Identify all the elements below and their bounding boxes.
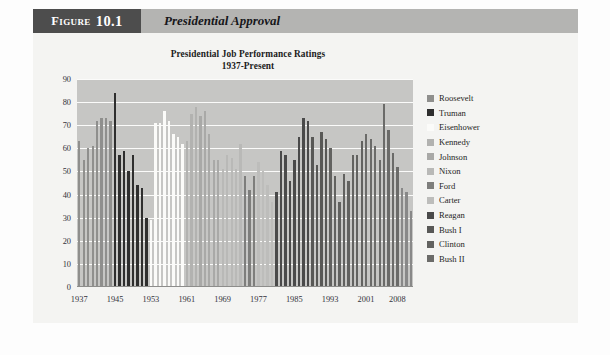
- bar: [87, 148, 89, 287]
- bar: [109, 121, 111, 287]
- x-axis-tick-label: 2001: [358, 295, 375, 304]
- bar: [239, 144, 241, 287]
- bar: [145, 218, 147, 287]
- legend-swatch: [427, 255, 434, 262]
- chart-title-block: Presidential Job Performance Ratings 193…: [33, 49, 463, 72]
- x-axis-tick-label: 1945: [107, 295, 124, 304]
- legend-label: Truman: [439, 108, 466, 118]
- bar: [123, 151, 125, 287]
- bar: [266, 185, 268, 287]
- bar-slot: [409, 79, 413, 287]
- y-axis-tick-label: 70: [63, 121, 71, 130]
- bar: [213, 160, 215, 287]
- legend-swatch: [427, 109, 434, 116]
- bar: [334, 176, 336, 287]
- bar: [383, 104, 385, 287]
- legend-item: Reagan: [427, 208, 547, 223]
- legend-swatch: [427, 197, 434, 204]
- bar: [365, 134, 367, 287]
- bar: [347, 181, 349, 287]
- legend-label: Eisenhower: [439, 122, 480, 132]
- bar: [374, 146, 376, 287]
- bar: [275, 192, 277, 287]
- x-axis-tick-label: 1953: [143, 295, 160, 304]
- bar: [248, 190, 250, 287]
- bar: [262, 171, 264, 287]
- x-axis-tick-label: 2008: [389, 295, 406, 304]
- x-axis-tick-label: 1961: [178, 295, 195, 304]
- figure-body: Presidential Job Performance Ratings 193…: [33, 33, 578, 323]
- y-axis-tick-label: 0: [67, 283, 71, 292]
- bar: [370, 139, 372, 287]
- x-axis-tick-label: 1937: [71, 295, 88, 304]
- bar: [83, 160, 85, 287]
- legend-swatch: [427, 226, 434, 233]
- legend-item: Carter: [427, 193, 547, 208]
- legend-label: Reagan: [439, 210, 465, 220]
- legend-item: Roosevelt: [427, 91, 547, 106]
- legend-label: Ford: [439, 181, 455, 191]
- bar: [208, 134, 210, 287]
- x-axis-line: [77, 286, 413, 287]
- bar: [159, 123, 161, 287]
- bar: [105, 118, 107, 287]
- bar: [222, 169, 224, 287]
- bar: [316, 165, 318, 287]
- plot-background: [77, 79, 413, 287]
- bar: [163, 111, 165, 287]
- bar: [307, 121, 309, 287]
- figure-page: Figure 10.1 Presidential Approval Presid…: [0, 0, 610, 355]
- figure-header: Figure 10.1 Presidential Approval: [33, 9, 578, 33]
- bar: [271, 202, 273, 288]
- bar: [253, 176, 255, 287]
- bar: [100, 118, 102, 287]
- bar: [226, 155, 228, 287]
- x-axis-tick-label: 1969: [214, 295, 231, 304]
- legend-swatch: [427, 124, 434, 131]
- bar: [92, 146, 94, 287]
- figure-badge-word: Figure: [51, 14, 91, 29]
- bar: [311, 137, 313, 287]
- y-axis-tick-label: 80: [63, 98, 71, 107]
- bar: [231, 158, 233, 287]
- bar: [410, 211, 412, 287]
- bar: [329, 148, 331, 287]
- bar: [325, 139, 327, 287]
- bar: [186, 141, 188, 287]
- y-axis-tick-label: 10: [63, 259, 71, 268]
- bar: [150, 220, 152, 287]
- legend-label: Clinton: [439, 239, 465, 249]
- legend-label: Johnson: [439, 152, 467, 162]
- chart-title: Presidential Job Performance Ratings: [33, 49, 463, 61]
- bar: [244, 176, 246, 287]
- x-axis-tick-label: 1985: [286, 295, 303, 304]
- legend-swatch: [427, 182, 434, 189]
- bar: [387, 130, 389, 287]
- legend-swatch: [427, 168, 434, 175]
- legend-label: Kennedy: [439, 137, 470, 147]
- bar: [302, 118, 304, 287]
- bar: [199, 116, 201, 287]
- bar: [338, 202, 340, 288]
- y-axis-tick-label: 60: [63, 144, 71, 153]
- bar: [195, 107, 197, 287]
- y-axis-tick-label: 20: [63, 236, 71, 245]
- bar: [392, 153, 394, 287]
- legend-label: Carter: [439, 195, 460, 205]
- bar: [356, 155, 358, 287]
- bar: [343, 174, 345, 287]
- legend-label: Roosevelt: [439, 93, 473, 103]
- x-axis-tick-label: 1977: [250, 295, 267, 304]
- bar: [235, 169, 237, 287]
- bar: [396, 167, 398, 287]
- bar: [154, 123, 156, 287]
- bar: [361, 141, 363, 287]
- y-axis-tick-label: 50: [63, 167, 71, 176]
- legend-label: Bush II: [439, 254, 465, 264]
- bar: [132, 155, 134, 287]
- legend-item: Bush I: [427, 222, 547, 237]
- bar: [298, 137, 300, 287]
- legend-swatch: [427, 241, 434, 248]
- bar: [168, 121, 170, 287]
- bar: [293, 160, 295, 287]
